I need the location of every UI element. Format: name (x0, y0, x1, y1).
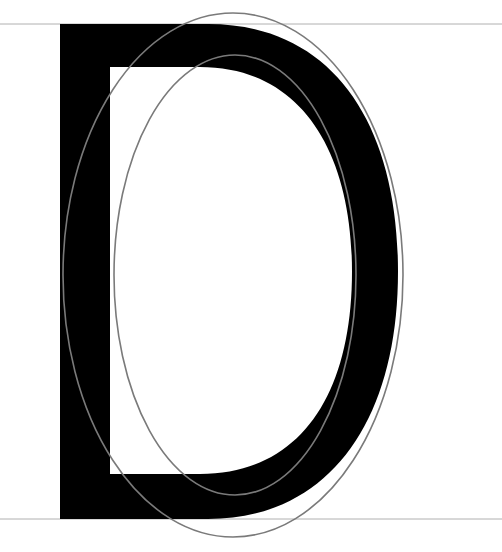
letter-d-construction-diagram (0, 0, 502, 552)
